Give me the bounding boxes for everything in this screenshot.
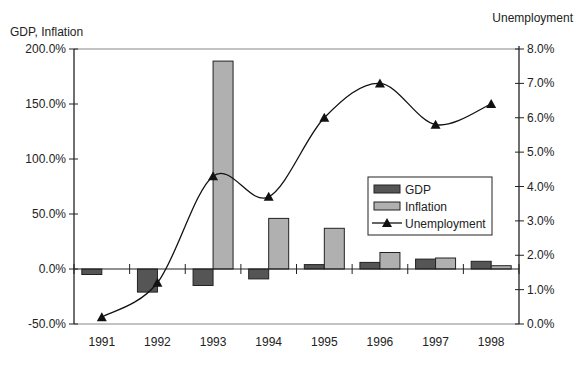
x-tick-label: 1996 [367,335,394,349]
legend-label: GDP [405,183,431,197]
left-axis-title: GDP, Inflation [10,25,83,39]
right-y-axis: 0.0%1.0%2.0%3.0%4.0%5.0%6.0%7.0%8.0% [515,42,555,331]
right-tick-label: 3.0% [527,214,555,228]
gdp-bar [249,269,269,279]
x-tick-label: 1991 [88,335,115,349]
legend-label: Unemployment [405,217,486,231]
left-tick-label: 200.0% [25,42,66,56]
gdp-bar [137,269,157,292]
right-tick-label: 4.0% [527,180,555,194]
right-tick-label: 5.0% [527,145,555,159]
right-tick-label: 6.0% [527,111,555,125]
inflation-bar [324,228,344,269]
gdp-bar [304,265,324,269]
inflation-bar [213,61,233,269]
gdp-bar [193,269,213,286]
right-tick-label: 8.0% [527,42,555,56]
legend-label: Inflation [405,200,447,214]
x-tick-label: 1998 [478,335,505,349]
triangle-marker-icon [97,312,107,321]
gdp-bar [82,269,102,275]
right-tick-label: 7.0% [527,76,555,90]
gdp-bar [360,262,380,269]
triangle-marker-icon [264,192,274,201]
x-tick-label: 1994 [255,335,282,349]
gdp-bar [471,261,491,269]
gdp-bar [416,259,436,269]
x-tick-label: 1995 [311,335,338,349]
left-y-axis: -50.0%0.0%50.0%100.0%150.0%200.0% [25,42,78,331]
combo-chart: -50.0%0.0%50.0%100.0%150.0%200.0% 0.0%1.… [0,0,578,368]
inflation-bar [269,218,289,269]
x-axis: 19911992199319941995199619971998 [88,335,504,349]
triangle-marker-icon [486,99,496,108]
left-tick-label: -50.0% [28,317,66,331]
right-axis-title: Unemployment [492,11,573,25]
gdp-swatch-icon [374,185,400,193]
right-tick-label: 2.0% [527,248,555,262]
x-tick-label: 1992 [144,335,171,349]
legend: GDPInflationUnemployment [368,177,492,235]
right-tick-label: 1.0% [527,283,555,297]
inflation-bar [380,253,400,270]
left-tick-label: 50.0% [32,207,66,221]
x-tick-label: 1997 [422,335,449,349]
inflation-bar [436,258,456,269]
inflation-swatch-icon [374,202,400,210]
left-tick-label: 0.0% [39,262,67,276]
left-tick-label: 100.0% [25,152,66,166]
left-tick-label: 150.0% [25,97,66,111]
right-tick-label: 0.0% [527,317,555,331]
x-tick-label: 1993 [200,335,227,349]
